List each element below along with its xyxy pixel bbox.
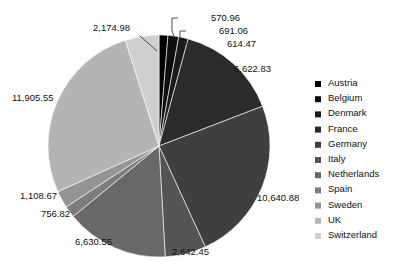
- legend-item-netherlands[interactable]: Netherlands: [328, 168, 379, 179]
- slice-value-label-france: 6,622.83: [234, 63, 271, 74]
- legend-swatch-austria: [315, 81, 321, 87]
- slice-value-label-denmark: 614.47: [227, 38, 256, 49]
- legend-item-spain[interactable]: Spain: [328, 183, 352, 194]
- legend-item-belgium[interactable]: Belgium: [328, 92, 362, 103]
- chart-legend: AustriaBelgiumDenmarkFranceGermanyItalyN…: [315, 77, 379, 240]
- slice-value-label-netherlands: 6,630.55: [75, 236, 112, 247]
- slice-value-label-switzerland: 2,174.98: [93, 22, 130, 33]
- legend-swatch-denmark: [315, 111, 321, 117]
- slice-value-label-germany: 10,640.88: [257, 192, 299, 203]
- slice-value-label-spain: 756.82: [41, 208, 70, 219]
- legend-swatch-france: [315, 127, 321, 133]
- legend-swatch-switzerland: [315, 233, 321, 239]
- legend-item-uk[interactable]: UK: [328, 214, 342, 225]
- legend-item-denmark[interactable]: Denmark: [328, 107, 367, 118]
- legend-swatch-uk: [315, 218, 321, 224]
- slice-value-label-austria: 570.96: [211, 12, 240, 23]
- legend-item-france[interactable]: France: [328, 123, 358, 134]
- slice-value-label-belgium: 691.06: [219, 25, 248, 36]
- legend-swatch-belgium: [315, 96, 321, 102]
- leader-line-belgium: [179, 31, 186, 38]
- legend-swatch-netherlands: [315, 172, 321, 178]
- legend-swatch-spain: [315, 187, 321, 193]
- legend-item-austria[interactable]: Austria: [328, 77, 358, 88]
- legend-item-sweden[interactable]: Sweden: [328, 199, 362, 210]
- legend-item-switzerland[interactable]: Switzerland: [328, 229, 377, 240]
- pie-chart-figure: 570.96691.06614.476,622.8310,640.882,642…: [0, 0, 400, 270]
- legend-item-italy[interactable]: Italy: [328, 153, 346, 164]
- legend-item-germany[interactable]: Germany: [328, 138, 367, 149]
- legend-swatch-sweden: [315, 203, 321, 209]
- slice-value-label-uk: 11,905.55: [12, 92, 54, 103]
- legend-swatch-italy: [315, 157, 321, 163]
- slice-value-label-sweden: 1,108.67: [20, 190, 57, 201]
- legend-swatch-germany: [315, 142, 321, 148]
- slice-value-label-italy: 2,642.45: [172, 246, 209, 257]
- leader-line-austria: [172, 18, 178, 36]
- pie-chart-canvas: 570.96691.06614.476,622.8310,640.882,642…: [0, 0, 400, 270]
